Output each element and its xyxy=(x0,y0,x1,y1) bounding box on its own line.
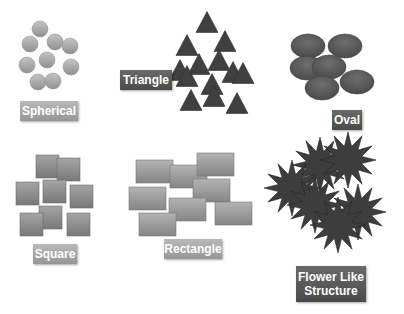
square-shape xyxy=(36,155,59,178)
oval-shape xyxy=(328,34,362,58)
sphere-shape xyxy=(30,74,46,90)
triangle-shape xyxy=(180,90,202,111)
sphere-shape xyxy=(63,59,79,75)
triangle-shape xyxy=(196,12,218,33)
label-flower-line2: Structure xyxy=(304,284,357,298)
sphere-shape xyxy=(47,34,63,50)
label-spherical: Spherical xyxy=(20,101,78,121)
sphere-shape xyxy=(32,21,48,37)
triangle-shape xyxy=(188,54,210,75)
label-square: Square xyxy=(33,244,77,264)
label-oval: Oval xyxy=(332,110,362,130)
sphere-shape xyxy=(39,52,55,68)
label-flower-like-structure: Flower Like Structure xyxy=(296,266,366,302)
rectangle-shape xyxy=(136,160,173,183)
rectangle-shape xyxy=(197,153,234,176)
square-shape xyxy=(16,182,39,205)
label-rectangle: Rectangle xyxy=(164,239,222,259)
shape-types-diagram: Spherical Triangle Oval Square Rectangle… xyxy=(0,0,404,314)
square-shape xyxy=(70,185,93,208)
oval-shape xyxy=(312,55,346,79)
square-shape xyxy=(67,213,90,236)
oval-shapes xyxy=(290,34,374,100)
triangle-shape xyxy=(208,50,230,71)
oval-shape xyxy=(305,76,339,100)
square-shape xyxy=(20,213,43,236)
rectangle-shapes xyxy=(129,153,252,236)
square-shape xyxy=(43,180,66,203)
sphere-shape xyxy=(62,38,78,54)
triangle-shape xyxy=(226,93,248,114)
square-shape xyxy=(57,158,80,181)
sphere-shape xyxy=(45,73,61,89)
label-flower-line1: Flower Like xyxy=(298,270,364,284)
spherical-shapes xyxy=(19,21,79,90)
square-shapes xyxy=(16,155,93,236)
triangle-shape xyxy=(214,31,236,52)
oval-shape xyxy=(291,34,325,58)
rectangle-shape xyxy=(129,187,166,210)
rectangle-shape xyxy=(139,213,176,236)
triangle-shapes xyxy=(169,12,254,114)
label-triangle: Triangle xyxy=(120,70,172,90)
oval-shape xyxy=(340,70,374,94)
flower-shapes xyxy=(264,132,386,253)
sphere-shape xyxy=(19,57,35,73)
rectangle-shape xyxy=(215,202,252,225)
triangle-shape xyxy=(176,35,198,56)
sphere-shape xyxy=(22,36,38,52)
